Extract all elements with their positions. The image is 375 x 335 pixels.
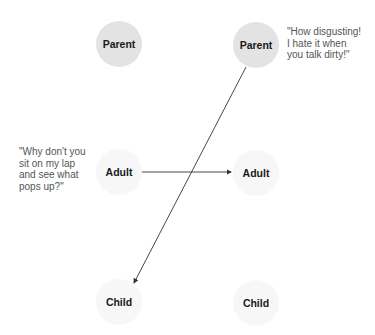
node-label: Parent bbox=[240, 39, 273, 51]
node-child-right: Child bbox=[233, 280, 279, 326]
node-parent-right: Parent bbox=[233, 22, 279, 68]
node-label: Child bbox=[106, 296, 132, 308]
quote-adult: "Why don't you sit on my lap and see wha… bbox=[19, 146, 86, 192]
node-label: Adult bbox=[243, 167, 270, 179]
node-label: Adult bbox=[106, 166, 133, 178]
node-parent-left: Parent bbox=[96, 21, 142, 67]
node-adult-right: Adult bbox=[233, 150, 279, 196]
node-label: Parent bbox=[103, 38, 136, 50]
node-label: Child bbox=[243, 297, 269, 309]
quote-parent: "How disgusting! I hate it when you talk… bbox=[287, 26, 361, 61]
node-child-left: Child bbox=[96, 279, 142, 325]
arrow-parent-to-child bbox=[134, 67, 246, 283]
node-adult-left: Adult bbox=[96, 149, 142, 195]
